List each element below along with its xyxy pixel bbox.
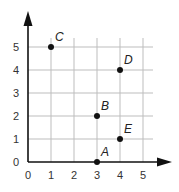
- x-tick-label: 3: [94, 169, 100, 181]
- point-label: B: [101, 99, 109, 113]
- point-label: D: [124, 53, 133, 67]
- x-tick-label: 5: [140, 169, 146, 181]
- point-marker-icon: [94, 159, 100, 165]
- coordinate-grid-chart: 012345 012345 ABCDE: [0, 0, 179, 192]
- point-label: C: [55, 30, 64, 44]
- point-marker-icon: [117, 136, 123, 142]
- x-tick-label: 0: [25, 169, 31, 181]
- x-tick-label: 4: [117, 169, 123, 181]
- grid-lines: [28, 38, 153, 162]
- y-tick-label: 1: [13, 133, 19, 145]
- y-tick-label: 4: [13, 64, 19, 76]
- y-tick-label: 5: [13, 41, 19, 53]
- y-tick-label: 0: [13, 156, 19, 168]
- axes: [24, 11, 173, 167]
- point-marker-icon: [48, 44, 54, 50]
- point-marker-icon: [94, 113, 100, 119]
- x-tick-label: 2: [71, 169, 77, 181]
- point-marker-icon: [117, 67, 123, 73]
- y-axis-arrow-icon: [24, 11, 33, 26]
- x-tick-labels: 012345: [25, 169, 146, 181]
- point-label: A: [100, 145, 109, 159]
- point-label: E: [124, 122, 133, 136]
- y-tick-label: 2: [13, 110, 19, 122]
- y-tick-labels: 012345: [13, 41, 19, 168]
- x-axis-arrow-icon: [157, 158, 172, 167]
- y-tick-label: 3: [13, 87, 19, 99]
- x-tick-label: 1: [48, 169, 54, 181]
